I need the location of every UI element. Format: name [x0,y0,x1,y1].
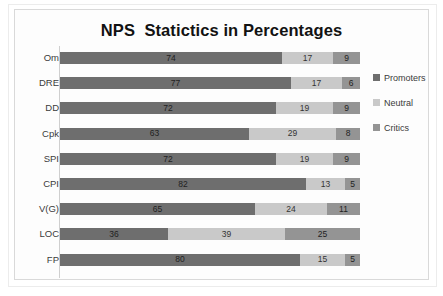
bar-value-label: 74 [166,54,175,63]
bar-segment-promoters: 74 [60,52,282,64]
bar-row: 80155 [60,254,360,266]
legend-item-critics[interactable]: Critics [373,118,429,137]
bar-row: 74179 [60,52,360,64]
bar-segment-critics: 25 [285,228,360,240]
bar-segment-promoters: 72 [60,153,276,165]
bar-value-label: 9 [344,104,349,113]
bar-value-label: 13 [321,180,330,189]
axis-label-spi: SPI [15,153,59,165]
bar-value-label: 77 [171,79,180,88]
bar-value-label: 36 [109,230,118,239]
bar-value-label: 5 [350,180,355,189]
bar-segment-critics: 8 [336,128,360,140]
chart-container: NPS Statictics in Percentages OmDREDDCpk… [14,9,429,280]
bar-value-label: 65 [153,205,162,214]
bar-value-label: 72 [163,155,172,164]
bar-row: 63298 [60,128,360,140]
bar-value-label: 9 [344,54,349,63]
bar-value-label: 29 [288,129,297,138]
bar-value-label: 24 [286,205,295,214]
bar-value-label: 80 [175,255,184,264]
bar-value-label: 39 [222,230,231,239]
bar-segment-neutral: 19 [276,153,333,165]
legend-swatch-icon [373,99,380,106]
bar-segment-neutral: 15 [300,254,345,266]
axis-label-om: Om [15,52,59,64]
legend-label: Promoters [384,73,426,83]
bars-area: 7417977176721996329872199821356524113639… [60,46,360,278]
chart-title: NPS Statictics in Percentages [15,21,428,40]
chart-legend: PromotersNeutralCritics [373,68,429,143]
bar-value-label: 11 [339,205,348,214]
bar-segment-critics: 5 [345,178,360,190]
bar-segment-critics: 9 [333,52,360,64]
bar-segment-critics: 9 [333,102,360,114]
bar-segment-critics: 6 [342,77,360,89]
bar-value-label: 19 [300,104,309,113]
bar-value-label: 6 [349,79,354,88]
bar-value-label: 17 [312,79,321,88]
axis-label-loc: LOC [15,228,59,240]
bar-row: 652411 [60,203,360,215]
category-axis: OmDREDDCpkSPICPIV(G)LOCFP [15,46,59,278]
bar-segment-neutral: 39 [168,228,285,240]
axis-label-dd: DD [15,102,59,114]
bar-segment-neutral: 17 [282,52,333,64]
bar-value-label: 25 [318,230,327,239]
axis-label-fp: FP [15,254,59,266]
legend-swatch-icon [373,74,380,81]
bar-segment-promoters: 80 [60,254,300,266]
bar-value-label: 82 [178,180,187,189]
bar-value-label: 5 [350,255,355,264]
bar-value-label: 15 [318,255,327,264]
legend-swatch-icon [373,124,380,131]
bar-value-label: 17 [303,54,312,63]
legend-label: Neutral [384,98,413,108]
bar-segment-critics: 5 [345,254,360,266]
bar-segment-promoters: 63 [60,128,249,140]
legend-item-promoters[interactable]: Promoters [373,68,429,87]
legend-label: Critics [384,123,409,133]
bar-value-label: 72 [163,104,172,113]
bar-segment-neutral: 24 [255,203,327,215]
axis-label-cpk: Cpk [15,128,59,140]
bar-segment-critics: 11 [327,203,360,215]
bar-segment-neutral: 17 [291,77,342,89]
bar-segment-promoters: 82 [60,178,306,190]
bar-segment-critics: 9 [333,153,360,165]
bar-segment-promoters: 36 [60,228,168,240]
bar-row: 363925 [60,228,360,240]
bar-row: 77176 [60,77,360,89]
bar-value-label: 19 [300,155,309,164]
bar-segment-promoters: 72 [60,102,276,114]
bar-segment-neutral: 13 [306,178,345,190]
bar-segment-neutral: 19 [276,102,333,114]
bar-row: 72199 [60,153,360,165]
bar-segment-promoters: 65 [60,203,255,215]
bar-value-label: 9 [344,155,349,164]
bar-row: 82135 [60,178,360,190]
bar-segment-neutral: 29 [249,128,336,140]
bar-row: 72199 [60,102,360,114]
axis-label-cpi: CPI [15,178,59,190]
bar-value-label: 63 [150,129,159,138]
axis-label-vg: V(G) [15,203,59,215]
bar-segment-promoters: 77 [60,77,291,89]
legend-item-neutral[interactable]: Neutral [373,93,429,112]
axis-label-dre: DRE [15,77,59,89]
bar-value-label: 8 [346,129,351,138]
plot-area: OmDREDDCpkSPICPIV(G)LOCFP 74179771767219… [15,46,430,278]
